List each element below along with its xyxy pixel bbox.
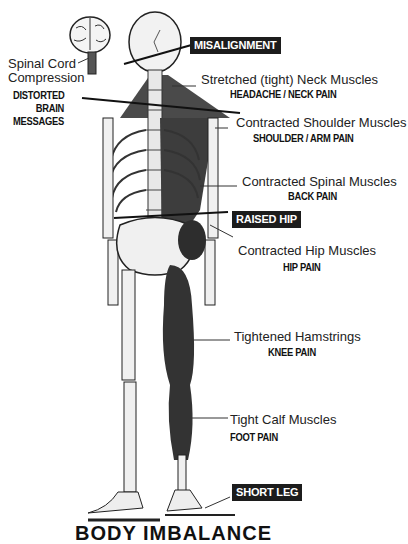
diagram-title: BODY IMBALANCE [75,522,272,544]
foot-pain-label: FOOT PAIN [230,431,278,444]
calf-muscle-label: Tight Calf Muscles [230,413,336,427]
back-pain-label: BACK PAIN [288,190,337,203]
spinal-cord-label: Spinal Cord Compression [8,57,76,85]
distorted-brain-messages-label: DISTORTED BRAIN MESSAGES [13,89,64,128]
brain-icon [70,17,110,74]
neck-pain-label: HEADACHE / NECK PAIN [230,88,336,101]
neck-muscle-label: Stretched (tight) Neck Muscles [201,73,378,87]
hip-pain-label: HIP PAIN [283,261,321,274]
knee-pain-label: KNEE PAIN [268,346,316,359]
shoulder-pain-label: SHOULDER / ARM PAIN [253,132,354,145]
raised-hip-tag: RAISED HIP [232,211,301,228]
shoulder-muscle-label: Contracted Shoulder Muscles [236,116,407,130]
misalignment-tag: MISALIGNMENT [190,37,281,54]
spinal-muscle-label: Contracted Spinal Muscles [242,175,397,189]
hamstrings-label: Tightened Hamstrings [234,330,361,344]
short-leg-tag: SHORT LEG [232,484,302,501]
hip-muscle-label: Contracted Hip Muscles [238,244,376,258]
